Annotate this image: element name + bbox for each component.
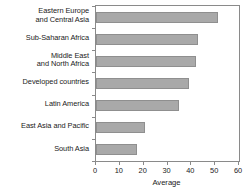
- bar: [96, 78, 189, 89]
- x-axis-tick-label: 60: [234, 166, 242, 176]
- category-label: South Asia: [0, 138, 93, 160]
- category-label: Latin America: [0, 94, 93, 116]
- x-axis-tick: [238, 161, 239, 165]
- x-axis-tick: [167, 161, 168, 165]
- x-axis-tick: [119, 161, 120, 165]
- x-axis-tick-label: 50: [210, 166, 218, 176]
- x-axis-tick: [190, 161, 191, 165]
- y-axis-tick: [92, 28, 96, 29]
- x-axis-tick-label: 10: [115, 166, 123, 176]
- y-axis-tick: [92, 139, 96, 140]
- bar-slot: [96, 28, 239, 50]
- category-axis: Eastern Europe and Central Asia Sub-Saha…: [0, 5, 93, 160]
- x-axis-tick-label: 0: [93, 166, 97, 176]
- y-axis-tick: [92, 50, 96, 51]
- y-axis-tick: [92, 6, 96, 7]
- category-label: Eastern Europe and Central Asia: [0, 5, 93, 27]
- y-axis-tick: [92, 95, 96, 96]
- y-axis-tick: [92, 72, 96, 73]
- x-axis-title: Average: [95, 178, 238, 188]
- bar-slot: [96, 72, 239, 94]
- bar-slot: [96, 139, 239, 161]
- category-label: Sub-Saharan Africa: [0, 27, 93, 49]
- category-label: Developed countries: [0, 71, 93, 93]
- x-axis-tick-label: 30: [162, 166, 170, 176]
- bar-slot: [96, 50, 239, 72]
- x-axis-tick: [143, 161, 144, 165]
- x-axis-tick-label: 20: [139, 166, 147, 176]
- bar-chart-figure: Eastern Europe and Central Asia Sub-Saha…: [0, 0, 246, 191]
- x-axis-tick: [95, 161, 96, 165]
- bar-slot: [96, 6, 239, 28]
- category-label: Middle East and North Africa: [0, 49, 93, 71]
- bar-slot: [96, 95, 239, 117]
- category-label: East Asia and Pacific: [0, 116, 93, 138]
- bars-layer: [96, 6, 239, 161]
- y-axis-tick: [92, 117, 96, 118]
- x-axis-tick-labels: 0102030405060: [95, 166, 238, 177]
- x-axis-tick-label: 40: [186, 166, 194, 176]
- bar: [96, 34, 198, 45]
- x-axis-tick: [214, 161, 215, 165]
- bar: [96, 12, 218, 23]
- bar: [96, 122, 145, 133]
- bar: [96, 56, 196, 67]
- bar-slot: [96, 117, 239, 139]
- bar: [96, 100, 179, 111]
- plot-area: [95, 5, 240, 162]
- bar: [96, 144, 137, 155]
